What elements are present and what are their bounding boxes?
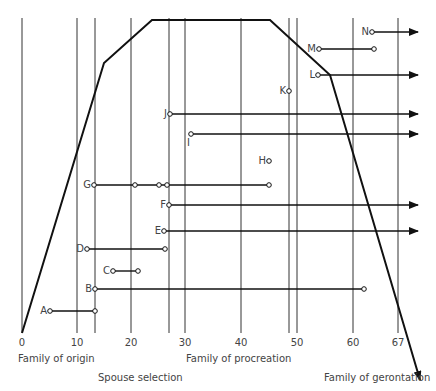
end-marker [267, 183, 272, 188]
start-marker [317, 47, 322, 52]
end-marker [362, 287, 367, 292]
start-marker [93, 287, 98, 292]
tick-label: 67 [392, 338, 405, 348]
family-size-curve [22, 20, 420, 380]
tick-label: 20 [125, 338, 138, 348]
phase-spouse-selection: Spouse selection [98, 373, 183, 383]
start-marker [267, 159, 272, 164]
end-marker [372, 47, 377, 52]
age-gridlines [22, 18, 398, 333]
phase-family-of-origin: Family of origin [18, 354, 95, 364]
phase-family-of-gerontation: Family of gerontation [324, 373, 430, 383]
start-marker [92, 183, 97, 188]
tick-label: 10 [71, 338, 84, 348]
start-marker [111, 269, 116, 274]
point-label-A: A [40, 306, 47, 316]
point-label-I: I [187, 138, 190, 148]
phase-family-of-procreation: Family of procreation [186, 354, 291, 364]
point-label-M: M [307, 44, 316, 54]
point-label-B: B [85, 284, 92, 294]
tick-label: 30 [179, 338, 192, 348]
point-label-L: L [309, 70, 315, 80]
end-marker [93, 309, 98, 314]
start-marker [162, 229, 167, 234]
start-marker [85, 247, 90, 252]
start-marker [168, 112, 173, 117]
end-marker [136, 269, 141, 274]
point-label-E: E [155, 226, 161, 236]
tick-label: 40 [235, 338, 248, 348]
point-label-N: N [362, 27, 369, 37]
start-marker [189, 132, 194, 137]
point-label-G: G [83, 180, 91, 190]
start-marker [370, 30, 375, 35]
mid-marker [133, 183, 138, 188]
start-marker [167, 203, 172, 208]
tick-label: 0 [19, 338, 25, 348]
mid-marker [157, 183, 162, 188]
point-label-D: D [76, 244, 84, 254]
start-marker [287, 89, 292, 94]
mid-marker [165, 183, 170, 188]
point-label-C: C [103, 266, 110, 276]
tick-label: 60 [347, 338, 360, 348]
tick-label: 50 [291, 338, 304, 348]
start-marker [48, 309, 53, 314]
point-label-H: H [258, 156, 266, 166]
point-label-F: F [160, 200, 166, 210]
point-label-K: K [279, 86, 286, 96]
point-label-J: J [164, 109, 167, 119]
end-marker [163, 247, 168, 252]
family-life-cycle-diagram [0, 0, 436, 391]
start-marker [316, 73, 321, 78]
